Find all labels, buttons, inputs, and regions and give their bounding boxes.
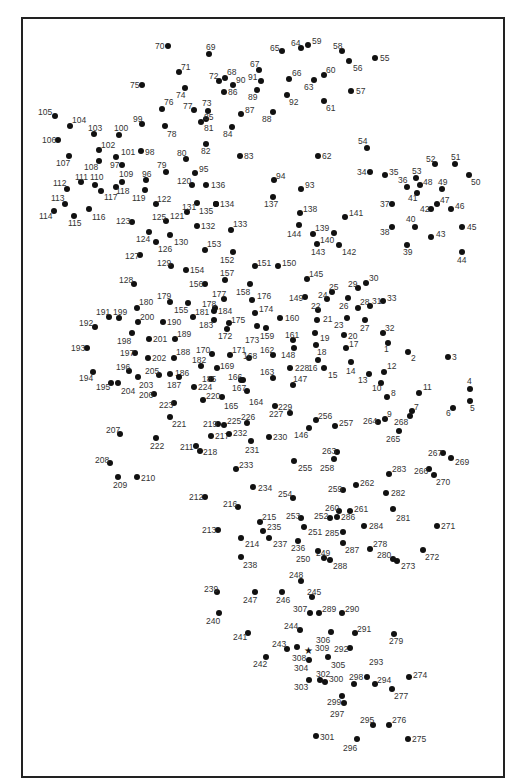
dot-label: 26 bbox=[339, 302, 348, 311]
dot-19 bbox=[312, 330, 318, 336]
dot-label: 55 bbox=[380, 54, 389, 63]
dot-label: 265 bbox=[386, 435, 400, 444]
dot-301 bbox=[313, 733, 319, 739]
dot-label: 213 bbox=[202, 526, 216, 535]
dot-label: 215 bbox=[262, 513, 276, 522]
dot-label: 282 bbox=[391, 489, 405, 498]
dot-label: 184 bbox=[218, 307, 232, 316]
dot-214 bbox=[238, 535, 244, 541]
dot-297 bbox=[341, 700, 347, 706]
dot-label: 88 bbox=[262, 115, 271, 124]
dot-217 bbox=[208, 433, 214, 439]
dot-33 bbox=[380, 298, 386, 304]
dot-label: 153 bbox=[207, 240, 221, 249]
dot-label: 294 bbox=[377, 676, 391, 685]
dot-label: 8 bbox=[391, 389, 396, 398]
dot-70 bbox=[165, 43, 171, 49]
dot-label: 45 bbox=[467, 223, 476, 232]
dot-label: 112 bbox=[53, 179, 67, 188]
dot-label: 201 bbox=[153, 335, 167, 344]
dot-label: 40 bbox=[406, 215, 415, 224]
dot-label: 24 bbox=[318, 291, 327, 300]
dot-label: 94 bbox=[276, 172, 285, 181]
dot-87 bbox=[238, 111, 244, 117]
dot-83 bbox=[237, 153, 243, 159]
dot-label: 252 bbox=[314, 512, 328, 521]
dot-label: 118 bbox=[116, 187, 130, 196]
dot-label: 7 bbox=[414, 403, 419, 412]
dot-label: 67 bbox=[250, 60, 259, 69]
dot-label: 71 bbox=[181, 63, 190, 72]
dot-62 bbox=[315, 153, 321, 159]
dot-label: 25 bbox=[329, 283, 338, 292]
dot-label: 11 bbox=[423, 383, 432, 392]
dot-label: 241 bbox=[233, 633, 247, 642]
dot-45 bbox=[459, 224, 465, 230]
dot-label: 195 bbox=[96, 383, 110, 392]
dot-20 bbox=[341, 332, 347, 338]
dot-label: 53 bbox=[412, 167, 421, 176]
dot-label: 309 bbox=[315, 644, 329, 653]
dot-label: 233 bbox=[239, 461, 253, 470]
dot-label: 181 bbox=[195, 308, 209, 317]
dot-label: 204 bbox=[121, 387, 135, 396]
dot-label: 48 bbox=[423, 178, 432, 187]
dot-label: 63 bbox=[304, 83, 313, 92]
dot-label: 39 bbox=[403, 248, 412, 257]
dot-label: 245 bbox=[307, 588, 321, 597]
dot-label: 64 bbox=[291, 39, 300, 48]
dot-label: 127 bbox=[125, 252, 139, 261]
dot-label: 257 bbox=[339, 419, 353, 428]
dot-label: 176 bbox=[257, 292, 271, 301]
dot-141 bbox=[342, 214, 348, 220]
dot-231 bbox=[248, 438, 254, 444]
dot-label: 73 bbox=[202, 99, 211, 108]
dot-275 bbox=[405, 736, 411, 742]
dot-46 bbox=[448, 206, 454, 212]
dot-label: 218 bbox=[203, 448, 217, 457]
dot-label: 155 bbox=[174, 306, 188, 315]
dot-label: 177 bbox=[212, 290, 226, 299]
dot-label: 236 bbox=[291, 544, 305, 553]
dot-label: 142 bbox=[342, 248, 356, 257]
dot-label: 208 bbox=[95, 456, 109, 465]
dot-label: 104 bbox=[72, 116, 86, 125]
dot-label: 80 bbox=[177, 149, 186, 158]
dot-label: 297 bbox=[330, 710, 344, 719]
dot-label: 5 bbox=[470, 404, 475, 413]
dot-label: 56 bbox=[353, 64, 362, 73]
dot-label: 61 bbox=[326, 104, 335, 113]
dot-label: 101 bbox=[121, 148, 135, 157]
dot-154 bbox=[183, 267, 189, 273]
dot-label: 90 bbox=[236, 76, 245, 85]
dot-label: 271 bbox=[441, 522, 455, 531]
dot-label: 266 bbox=[414, 467, 428, 476]
dot-label: 182 bbox=[192, 356, 206, 365]
dot-label: 223 bbox=[159, 401, 173, 410]
dot-label: 42 bbox=[420, 205, 429, 214]
dot-label: 109 bbox=[119, 170, 133, 179]
dot-label: 22 bbox=[311, 302, 320, 311]
dot-label: 150 bbox=[282, 259, 296, 268]
dot-label: 125 bbox=[152, 213, 166, 222]
dot-label: 230 bbox=[273, 433, 287, 442]
dot-label: 134 bbox=[220, 200, 234, 209]
dot-label: 36 bbox=[398, 176, 407, 185]
dot-label: 6 bbox=[446, 409, 451, 418]
dot-label: 65 bbox=[270, 44, 279, 53]
dot-label: 220 bbox=[206, 392, 220, 401]
dot-label: 193 bbox=[71, 344, 85, 353]
dot-label: 244 bbox=[284, 622, 298, 631]
dot-262 bbox=[353, 482, 359, 488]
dot-98 bbox=[138, 148, 144, 154]
dot-97 bbox=[119, 162, 125, 168]
dot-label: 219 bbox=[203, 420, 217, 429]
dot-label: 279 bbox=[389, 637, 403, 646]
dot-21 bbox=[314, 317, 320, 323]
dot-label: 226 bbox=[241, 413, 255, 422]
dot-label: 77 bbox=[183, 102, 192, 111]
dot-label: 27 bbox=[360, 324, 369, 333]
dot-286 bbox=[334, 514, 340, 520]
dot-label: 51 bbox=[451, 153, 460, 162]
dot-label: 247 bbox=[243, 596, 257, 605]
